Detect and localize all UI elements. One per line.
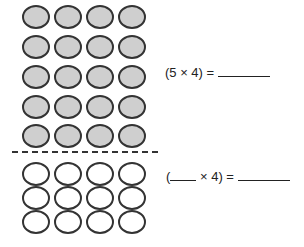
equation-top: (5 × 4) =: [165, 64, 270, 80]
equation-top-text: (5 × 4) =: [165, 65, 214, 80]
filled-circle: [86, 5, 114, 29]
filled-circle: [86, 35, 114, 59]
filled-circle: [22, 95, 50, 119]
filled-circle: [118, 35, 146, 59]
empty-circle: [22, 186, 50, 210]
filled-circle: [118, 5, 146, 29]
filled-circle: [86, 124, 114, 148]
filled-circle: [22, 65, 50, 89]
answer-blank-top[interactable]: [218, 64, 270, 77]
factor-blank-bottom[interactable]: [170, 168, 196, 181]
filled-circle: [22, 5, 50, 29]
empty-circle: [22, 162, 50, 186]
empty-circle: [86, 210, 114, 234]
empty-circle: [118, 162, 146, 186]
answer-blank-bottom[interactable]: [238, 168, 290, 181]
empty-circle: [118, 186, 146, 210]
filled-circle: [22, 35, 50, 59]
equation-bottom: ( × 4) =: [166, 168, 290, 184]
filled-circle: [22, 124, 50, 148]
circle-array: [0, 0, 160, 247]
filled-circle: [86, 65, 114, 89]
dashed-divider: [12, 151, 158, 153]
filled-circle: [86, 95, 114, 119]
filled-circle: [54, 124, 82, 148]
filled-circle: [54, 65, 82, 89]
empty-circle: [54, 210, 82, 234]
filled-circle: [118, 65, 146, 89]
empty-circle: [118, 210, 146, 234]
empty-circle: [86, 162, 114, 186]
filled-circle: [54, 5, 82, 29]
filled-circle: [54, 35, 82, 59]
filled-circle: [118, 124, 146, 148]
empty-circle: [22, 210, 50, 234]
filled-circle: [118, 95, 146, 119]
equation-bottom-text: × 4) =: [200, 169, 234, 184]
empty-circle: [54, 186, 82, 210]
empty-circle: [86, 186, 114, 210]
filled-circle: [54, 95, 82, 119]
empty-circle: [54, 162, 82, 186]
